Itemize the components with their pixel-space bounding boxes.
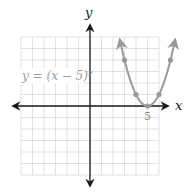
graph: x y 5 y = (x − 5)² (0, 0, 191, 193)
equation-label: y = (x − 5)² (21, 69, 93, 83)
plotted-point (156, 92, 161, 97)
plotted-point (168, 57, 173, 62)
plotted-point (122, 57, 127, 62)
x-tick-label-5: 5 (144, 110, 151, 123)
y-axis-label: y (84, 5, 93, 20)
plotted-point (133, 92, 138, 97)
plotted-point (145, 103, 150, 108)
x-axis-label: x (175, 98, 183, 113)
